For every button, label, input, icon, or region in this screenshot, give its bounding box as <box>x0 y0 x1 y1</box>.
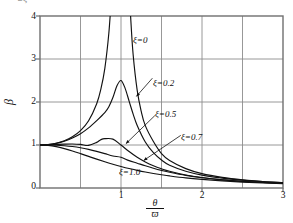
x-axis-label-numerator: θ <box>143 198 167 208</box>
xtick-label-1: 1 <box>115 190 127 200</box>
xtick-label-3: 3 <box>277 190 289 200</box>
ytick-label-2: 2 <box>24 96 36 106</box>
curve-label-zeta-0-7: ξ=0.7 <box>181 133 202 142</box>
leader-lines <box>126 78 181 160</box>
axis-ticks <box>36 16 283 192</box>
ytick-label-3: 3 <box>24 53 36 63</box>
grid-lines <box>40 16 283 188</box>
curve-label-zeta-0-2: ξ=0.2 <box>153 79 174 88</box>
x-axis-label: θ ϖ <box>143 198 167 219</box>
y-axis-label: β <box>3 99 15 105</box>
ytick-label-0: 0 <box>24 181 36 191</box>
curve-label-zeta-0-5: ξ=0.5 <box>155 110 176 119</box>
curve-label-zeta-0: ξ=0 <box>133 36 147 45</box>
ytick-label-4: 4 <box>24 11 36 21</box>
chart-figure: 2ξ 4 3 2 1 0 1 2 3 β θ ϖ ξ=0 ξ=0.2 ξ=0.5… <box>0 0 293 223</box>
x-axis-label-denominator: ϖ <box>146 208 164 219</box>
xtick-label-2: 2 <box>196 190 208 200</box>
clipped-top-fragment: 2ξ <box>18 0 27 3</box>
ytick-label-1: 1 <box>24 138 36 148</box>
curve-label-zeta-1-0: ξ=1.0 <box>119 168 140 177</box>
magnification-factor-plot <box>0 0 293 223</box>
